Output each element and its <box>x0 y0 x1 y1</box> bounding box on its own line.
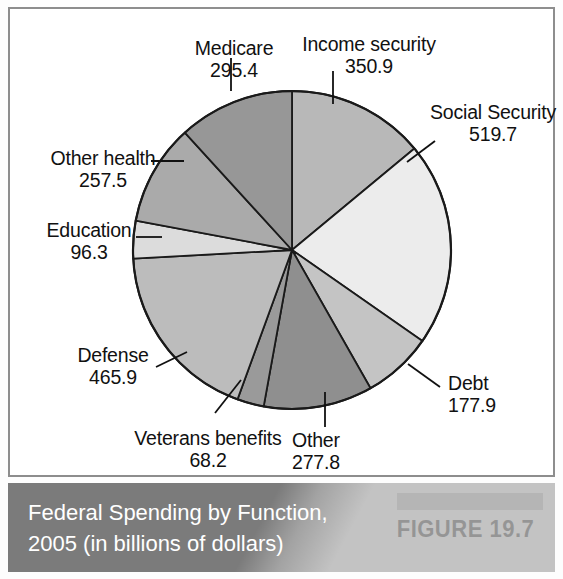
leader-line-debt <box>408 364 440 387</box>
pie-label-medicare: Medicare 295.4 <box>173 37 295 81</box>
pie-slice-group <box>133 91 451 409</box>
chart-panel: Medicare 295.4 Income security 350.9 Soc… <box>8 7 555 477</box>
pie-label-defense-name: Defense <box>58 344 168 366</box>
pie-label-defense: Defense 465.9 <box>58 344 168 388</box>
pie-label-other-health-name: Other health <box>28 147 178 169</box>
figure-caption-text: Federal Spending by Function, 2005 (in b… <box>28 497 358 559</box>
pie-label-veterans-benefits-value: 68.2 <box>122 449 294 471</box>
figure-number-label: FIGURE 19.7 <box>393 515 533 543</box>
pie-label-income-security: Income security 350.9 <box>278 33 460 77</box>
pie-label-other-health-value: 257.5 <box>28 169 178 191</box>
pie-label-education: Education 96.3 <box>32 219 146 263</box>
pie-label-veterans-benefits-name: Veterans benefits <box>122 427 294 449</box>
figure-caption-line-2: 2005 (in billions of dollars) <box>28 528 358 559</box>
pie-label-defense-value: 465.9 <box>58 366 168 388</box>
pie-label-other-value: 277.8 <box>292 451 384 473</box>
pie-label-debt-value: 177.9 <box>448 394 548 416</box>
pie-label-debt-name: Debt <box>448 372 548 394</box>
figure-caption-bar: Federal Spending by Function, 2005 (in b… <box>8 483 555 572</box>
figure-number-block: FIGURE 19.7 <box>393 493 545 543</box>
pie-label-debt: Debt 177.9 <box>448 372 548 416</box>
pie-label-social-security-name: Social Security <box>414 101 563 123</box>
figure-caption-line-1: Federal Spending by Function, <box>28 497 358 528</box>
pie-label-medicare-value: 295.4 <box>173 59 295 81</box>
pie-label-income-security-value: 350.9 <box>278 55 460 77</box>
pie-label-other-name: Other <box>292 429 384 451</box>
pie-label-education-value: 96.3 <box>32 241 146 263</box>
figure-container: Medicare 295.4 Income security 350.9 Soc… <box>0 0 563 579</box>
pie-label-education-name: Education <box>32 219 146 241</box>
pie-label-social-security-value: 519.7 <box>414 123 563 145</box>
pie-chart: Medicare 295.4 Income security 350.9 Soc… <box>10 9 557 479</box>
pie-label-other: Other 277.8 <box>292 429 384 473</box>
pie-label-veterans-benefits: Veterans benefits 68.2 <box>122 427 294 471</box>
pie-label-medicare-name: Medicare <box>173 37 295 59</box>
figure-number-rule <box>397 493 543 510</box>
pie-label-social-security: Social Security 519.7 <box>414 101 563 145</box>
pie-label-income-security-name: Income security <box>278 33 460 55</box>
pie-label-other-health: Other health 257.5 <box>28 147 178 191</box>
